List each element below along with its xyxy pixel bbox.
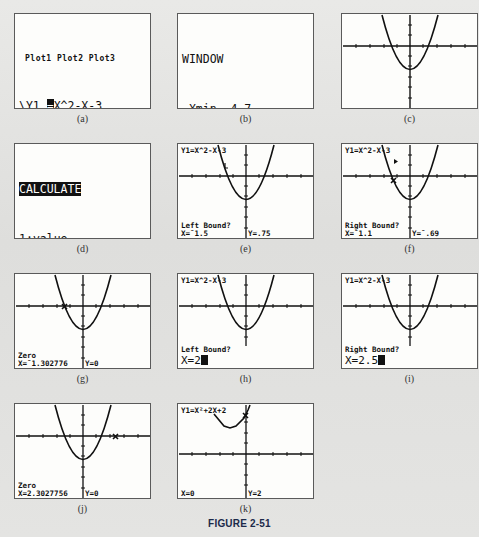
label-c: (c) [341,113,478,124]
window-title: WINDOW [182,54,311,66]
y-value: Y=0 [85,490,99,498]
y-value: Y=¯.69 [412,230,439,238]
label-b: (b) [177,113,314,124]
x-entry-line[interactable]: X=2 [181,355,208,366]
cursor-block [378,355,385,365]
label-f: (f) [341,243,478,254]
prompt-right-bound: Right Bound? [345,346,399,354]
calculate-title: CALCULATE [19,184,148,196]
label-d: (d) [14,243,151,254]
panel-g-zero-result: Zero X=¯1.302776 Y=0 [14,273,151,369]
parabola-graph [178,404,314,499]
bound-marker-icon [394,159,398,164]
panel-k-trace: Y1=X²+2X+2 X=0 Y=2 [177,403,314,499]
panel-a-y-editor: Plot1 Plot2 Plot3 \Y1 =X^2-X-3 \Y2= \Y3=… [14,13,151,109]
y1-expression: X^2-X-3 [54,99,102,109]
y-value: Y=.75 [248,230,271,238]
function-label: Y1=X^2-X-3 [345,147,390,155]
label-j: (j) [14,503,151,514]
y1-line: \Y1 =X^2-X-3 [19,101,148,109]
x-value: X=¯1.302776 [18,360,68,368]
panel-h-left-bound-entry: Y1=X^2-X-3 Left Bound? X=2 [177,273,314,369]
cursor-block [201,355,208,365]
prompt-left-bound: Left Bound? [181,346,231,354]
function-label: Y1=X^2-X-3 [181,277,226,285]
trace-cursor-icon [225,163,228,168]
y1-equals-highlight: = [47,99,54,109]
label-i: (i) [341,373,478,384]
x-value: X=2.3027756 [18,490,68,498]
function-label: Y1=X²+2X+2 [181,407,226,415]
panel-j-zero-result: Zero X=2.3027756 Y=0 [14,403,151,499]
y-value: Y=2 [248,490,262,498]
panel-e-left-bound: Y1=X^2-X-3 Left Bound? X=¯1.5 Y=.75 [177,143,314,239]
figure-caption: FIGURE 2-51 [0,518,479,529]
label-a: (a) [14,113,151,124]
panel-f-right-bound: Y1=X^2-X-3 Right Bound? X=¯1.1 Y=¯.69 [341,143,478,239]
function-label: Y1=X^2-X-3 [345,277,390,285]
x-value: X=¯1.5 [181,230,208,238]
label-g: (g) [14,373,151,384]
xmin-line: Xmin=-4.7 [182,104,311,110]
x-entry-line[interactable]: X=2.5 [345,355,385,366]
label-e: (e) [177,243,314,254]
function-label: Y1=X^2-X-3 [181,147,226,155]
menu-item-value[interactable]: 1:value [19,234,148,240]
x-value: X=0 [181,490,195,498]
plot-header: Plot1 Plot2 Plot3 [19,54,148,63]
x-value: X=¯1.1 [345,230,372,238]
panel-c-graph [341,13,478,109]
panel-i-right-bound-entry: Y1=X^2-X-3 Right Bound? X=2.5 [341,273,478,369]
label-h: (h) [177,373,314,384]
label-k: (k) [177,503,314,514]
panel-d-calculate-menu: CALCULATE 1:value 2:zero 3:minimum 4:max… [14,143,151,239]
panel-b-window: WINDOW Xmin=-4.7 Xmax=4.7 Xscl=1 Ymin=-6… [177,13,314,109]
y-value: Y=0 [85,360,99,368]
parabola-graph [342,14,478,109]
